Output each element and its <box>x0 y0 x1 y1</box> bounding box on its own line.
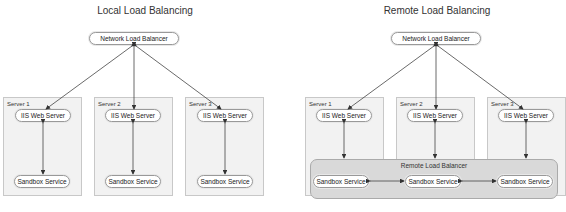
connector-arrows <box>0 0 566 212</box>
